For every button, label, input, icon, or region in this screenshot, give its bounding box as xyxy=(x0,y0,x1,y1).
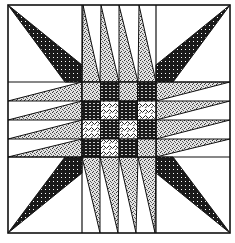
corner-spike-top-left xyxy=(8,5,82,82)
corner-spike-bottom-left xyxy=(8,157,82,233)
quilt-block xyxy=(0,0,235,243)
corner-spike-top-right xyxy=(156,5,230,82)
top-spikes xyxy=(82,5,156,82)
bottom-spikes xyxy=(82,157,156,233)
corner-spike-bottom-right xyxy=(156,157,230,233)
center-checkerboard xyxy=(82,82,156,157)
left-spikes xyxy=(8,82,82,157)
right-spikes xyxy=(156,82,230,157)
